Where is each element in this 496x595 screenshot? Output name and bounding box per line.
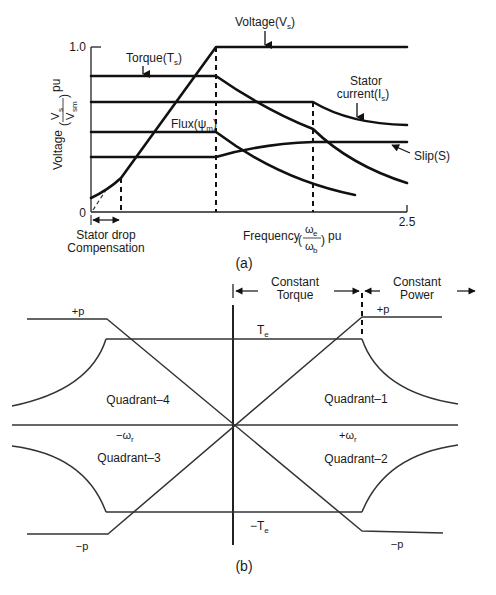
label-p-pos-left: +p	[72, 305, 85, 317]
stator-drop-annotation: Stator drop Compensation	[67, 215, 144, 255]
svg-text:Constant: Constant	[393, 275, 442, 289]
svg-text:): )	[321, 233, 325, 247]
svg-text:Compensation: Compensation	[67, 241, 144, 255]
label-te-neg: −Te	[250, 519, 269, 535]
constant-power-region: Constant Power	[365, 275, 475, 302]
svg-text:Flux(ψm): Flux(ψm)	[171, 117, 217, 133]
label-p-neg-left: −p	[76, 540, 89, 552]
label-quadrant-4: Quadrant–4	[106, 393, 170, 407]
label-wr-neg: −ωr	[116, 429, 134, 444]
svg-text:Stator: Stator	[350, 74, 382, 88]
label-te-pos: Te	[257, 323, 269, 339]
label-p-neg-right: −p	[391, 538, 404, 550]
svg-text:b: b	[313, 246, 318, 255]
x-tick-label-end: 2.5	[399, 215, 416, 229]
label-p-pos-right: +p	[377, 303, 390, 315]
svg-text:Torque: Torque	[277, 288, 314, 302]
slip-annotation: Slip(S)	[392, 145, 450, 163]
chart-b: Constant Torque Constant Power +p +p −p …	[12, 275, 475, 574]
svg-text:Frequency: Frequency	[243, 229, 300, 243]
stator-current-curve	[91, 102, 407, 125]
label-quadrant-1: Quadrant–1	[324, 392, 388, 406]
svg-text:pu: pu	[49, 79, 63, 92]
y-tick-label-top: 1.0	[69, 40, 86, 54]
constant-torque-region: Constant Torque	[233, 275, 359, 302]
svg-text:Voltage: Voltage	[51, 130, 65, 170]
svg-text:Stator drop: Stator drop	[76, 228, 136, 242]
voltage-curve	[91, 47, 407, 198]
svg-text:(: (	[57, 122, 71, 126]
chart-a: 1.0 0 2.5 Voltage V s V sm ( ) pu	[49, 15, 450, 271]
svg-text:s: s	[56, 108, 65, 112]
voltage-annotation: Voltage(Vs)	[235, 15, 295, 45]
x-axis-label: Frequency ( ω e ω b ) pu	[243, 223, 341, 255]
svg-text:sm: sm	[70, 101, 79, 112]
label-wr-pos: +ωr	[339, 429, 357, 444]
stator-current-annotation: Stator current(Is)	[337, 74, 390, 117]
svg-text:current(Is): current(Is)	[337, 87, 390, 103]
curve-q4	[12, 339, 106, 406]
svg-text:Constant: Constant	[271, 275, 320, 289]
svg-text:Slip(S): Slip(S)	[414, 149, 450, 163]
caption-b: (b)	[235, 558, 252, 574]
label-quadrant-3: Quadrant–3	[97, 451, 161, 465]
caption-a: (a)	[235, 255, 252, 271]
svg-text:e: e	[313, 229, 318, 238]
y-tick-label-zero: 0	[79, 206, 86, 220]
svg-text:Power: Power	[400, 288, 434, 302]
svg-text:(: (	[298, 233, 302, 247]
label-quadrant-2: Quadrant–2	[324, 452, 388, 466]
svg-text:V: V	[64, 112, 76, 120]
svg-text:pu: pu	[328, 229, 341, 243]
flux-annotation: Flux(ψm)	[171, 117, 217, 133]
y-axis-label: Voltage V s V sm ( ) pu	[49, 79, 79, 170]
torque-annotation: Torque(Ts)	[126, 51, 182, 74]
svg-text:V: V	[49, 112, 61, 120]
svg-text:): )	[57, 94, 71, 98]
svg-text:Voltage(Vs): Voltage(Vs)	[235, 15, 295, 31]
figure-canvas: 1.0 0 2.5 Voltage V s V sm ( ) pu	[0, 0, 496, 595]
curve-q3	[12, 446, 106, 512]
svg-text:Torque(Ts): Torque(Ts)	[126, 51, 182, 67]
